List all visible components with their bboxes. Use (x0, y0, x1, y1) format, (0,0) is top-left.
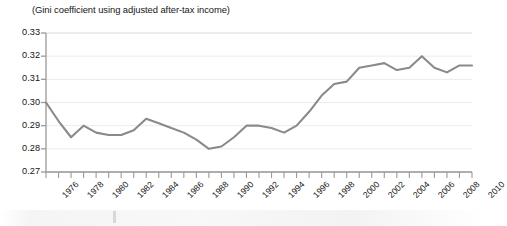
y-axis-tick-label: 0.30 (12, 98, 40, 107)
scan-artifact-band (0, 210, 490, 226)
y-axis-tick-label: 0.32 (12, 51, 40, 60)
y-axis-tick-label: 0.31 (12, 74, 40, 83)
y-axis-tick-label: 0.28 (12, 144, 40, 153)
y-axis-tick-label: 0.33 (12, 28, 40, 37)
y-axis-tick-label: 0.27 (12, 167, 40, 176)
y-axis-tick-label: 0.29 (12, 121, 40, 130)
scan-artifact-mark (113, 211, 116, 223)
